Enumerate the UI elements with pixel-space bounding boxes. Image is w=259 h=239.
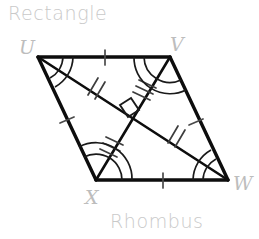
vertex-label-U: U	[19, 36, 35, 58]
diagram-canvas: Rectangle	[0, 0, 259, 239]
tick-UW-lower-2	[175, 130, 185, 147]
diagonal-VX	[96, 57, 170, 180]
caption-rhombus: Rhombus	[110, 210, 204, 232]
vertex-label-X: X	[85, 186, 99, 208]
rhombus-figure	[0, 0, 259, 239]
vertex-label-V: V	[170, 33, 184, 55]
vertex-label-W: W	[233, 172, 253, 194]
tick-UW-lower-1	[168, 126, 178, 143]
